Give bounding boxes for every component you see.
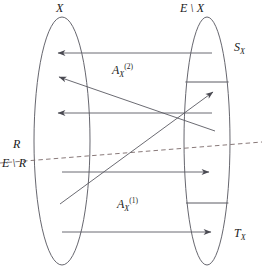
arrow-diagonal-up-right [60, 92, 213, 204]
label-arrow-group-lower-subscript: X [124, 204, 129, 213]
left-set-ellipse [34, 17, 90, 265]
label-right-set: E \ X [180, 2, 204, 14]
label-region-t-x-base: T [234, 226, 241, 240]
diagram-canvas [0, 0, 262, 273]
label-arrow-group-lower: AX(1) [117, 197, 138, 213]
label-region-s-x-subscript: X [240, 47, 245, 56]
label-left-set: X [56, 2, 63, 14]
right-set-ellipse [184, 17, 230, 265]
label-arrow-group-lower-superscript: (1) [129, 196, 138, 205]
label-arrow-group-upper-superscript: (2) [124, 62, 133, 71]
label-region-s-x: SX [234, 41, 245, 56]
label-arrow-group-upper-subscript: X [119, 70, 124, 79]
label-region-t-x-subscript: X [241, 233, 246, 242]
label-arrow-group-upper: AX(2) [112, 63, 133, 79]
set-mapping-diagram: X E \ X SX TX AX(2) AX(1) R E \ R [0, 0, 262, 273]
label-region-t-x: TX [234, 227, 246, 242]
label-region-r: R [13, 138, 20, 150]
arrow-diagonal-up-left [59, 77, 215, 131]
label-region-e-minus-r: E \ R [2, 157, 26, 169]
